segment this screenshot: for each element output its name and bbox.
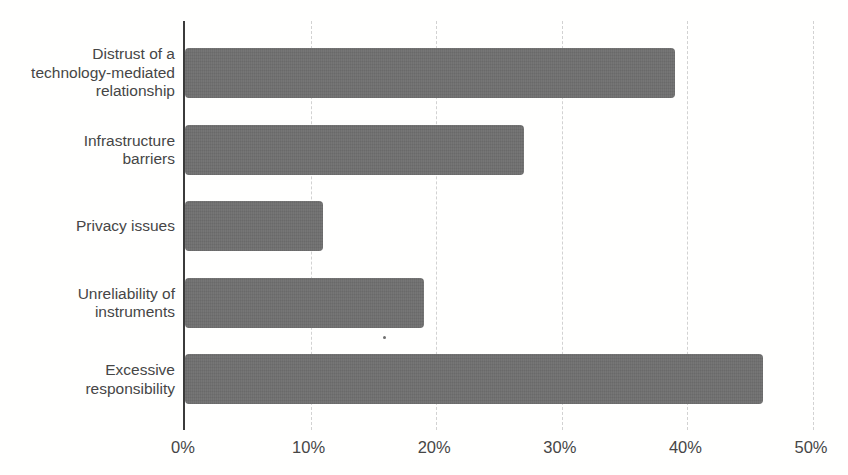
x-tick-label: 40%: [669, 438, 702, 457]
bar: [185, 48, 675, 98]
category-label-column: Distrust of atechnology-mediatedrelation…: [0, 21, 175, 430]
bar: [185, 278, 424, 328]
x-tick-label: 10%: [292, 438, 325, 457]
category-label-line: technology-mediated: [0, 64, 175, 83]
category-label: Infrastructurebarriers: [0, 131, 175, 168]
category-label: Unreliability ofinstruments: [0, 284, 175, 321]
category-label-line: Privacy issues: [0, 217, 175, 236]
bar: [185, 354, 763, 404]
gridline-50%: [813, 21, 814, 430]
category-label: Privacy issues: [0, 217, 175, 236]
category-label-line: Excessive: [0, 361, 175, 380]
category-label-line: responsibility: [0, 379, 175, 398]
category-label: Distrust of atechnology-mediatedrelation…: [0, 45, 175, 101]
category-label-line: Infrastructure: [0, 131, 175, 150]
category-label-line: Unreliability of: [0, 284, 175, 303]
x-tick-label: 50%: [794, 438, 827, 457]
category-label-line: instruments: [0, 303, 175, 322]
horizontal-bar-chart: Distrust of atechnology-mediatedrelation…: [0, 0, 848, 475]
scan-artifact-dot: [383, 336, 386, 339]
category-label-line: barriers: [0, 150, 175, 169]
x-tick-label: 20%: [418, 438, 451, 457]
bar: [185, 201, 323, 251]
category-label: Excessiveresponsibility: [0, 361, 175, 398]
category-label-line: relationship: [0, 82, 175, 101]
category-label-line: Distrust of a: [0, 45, 175, 64]
x-tick-label: 0%: [171, 438, 195, 457]
bar: [185, 125, 524, 175]
x-tick-label: 30%: [543, 438, 576, 457]
plot-area: [183, 21, 813, 430]
x-axis-tick-labels: 0%10%20%30%40%50%: [183, 438, 811, 462]
